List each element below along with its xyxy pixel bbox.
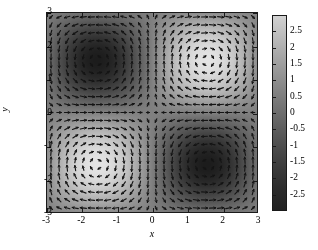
colorbar-tick-label: -1 (290, 140, 298, 151)
y-axis-title: y (0, 107, 10, 111)
colorbar-tick-label: -1.5 (290, 156, 305, 167)
x-tick-label: 3 (243, 215, 273, 226)
y-tick-label: -1 (22, 140, 52, 151)
x-tick-label: 2 (208, 215, 238, 226)
y-tick-label: 2 (22, 40, 52, 51)
colorbar-tick-label: 0 (290, 107, 295, 118)
x-tick-label: -2 (66, 215, 96, 226)
colorbar-tick-mark (272, 80, 276, 81)
colorbar-tick-label: 1 (290, 74, 295, 85)
y-tick-label: -2 (22, 174, 52, 185)
colorbar-tick-mark (272, 97, 276, 98)
x-tick-label: 1 (172, 215, 202, 226)
figure-canvas: -3-2-10123 -3-2-10123 x y 2.521.510.50-0… (0, 0, 318, 250)
colorbar-tick-mark (272, 195, 276, 196)
x-tick-label: 0 (137, 215, 167, 226)
colorbar-tick-mark (272, 113, 276, 114)
colorbar-tick-mark (272, 64, 276, 65)
colorbar-tick-label: 2 (290, 42, 295, 53)
colorbar-tick-label: -2 (290, 172, 298, 183)
colorbar-tick-mark (272, 162, 276, 163)
colorbar-tick-mark (272, 129, 276, 130)
y-tick-label: 3 (22, 6, 52, 17)
colorbar-tick-label: 0.5 (290, 91, 302, 102)
quiver-vector-field-layer (47, 13, 257, 212)
y-tick-label: -3 (22, 207, 52, 218)
colorbar-tick-label: -0.5 (290, 123, 305, 134)
colorbar-tick-mark (272, 146, 276, 147)
colorbar-tick-mark (272, 31, 276, 32)
plot-axes (46, 12, 258, 213)
y-tick-label: 1 (22, 73, 52, 84)
x-tick-label: -1 (102, 215, 132, 226)
x-axis-title: x (46, 228, 258, 239)
y-tick-label: 0 (22, 107, 52, 118)
colorbar-tick-mark (272, 178, 276, 179)
colorbar-tick-label: 1.5 (290, 58, 302, 69)
colorbar-tick-mark (272, 48, 276, 49)
colorbar-tick-label: -2.5 (290, 189, 305, 200)
colorbar-tick-label: 2.5 (290, 25, 302, 36)
